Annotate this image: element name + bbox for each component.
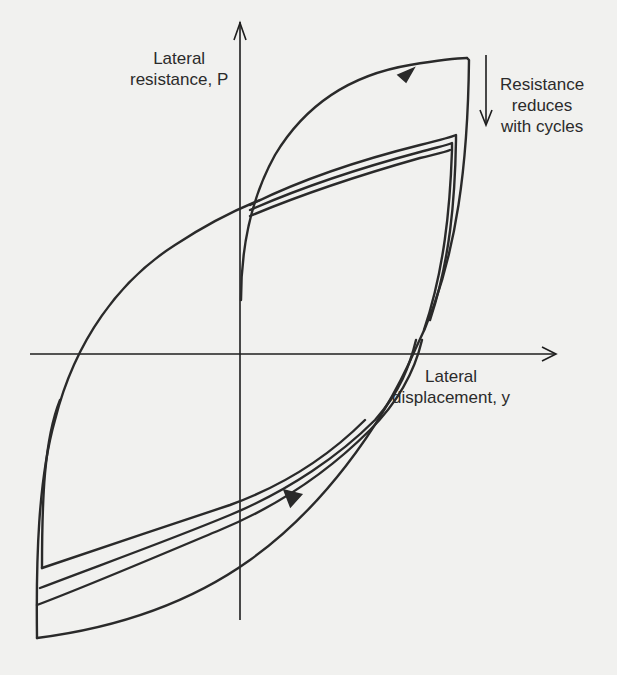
annotation-line-3: with cycles (500, 116, 584, 137)
y-axis-label: Lateral resistance, P (130, 48, 228, 90)
upper-branch-2 (250, 135, 456, 320)
upper-branch-3b (250, 150, 450, 216)
annotation-line-1: Resistance (500, 74, 584, 95)
loop-cycle-1 (37, 58, 469, 638)
loading-direction-arrow-icon (398, 68, 414, 82)
unloading-curve-1 (37, 58, 469, 638)
unloading-direction-arrow-icon (284, 486, 304, 508)
hysteresis-diagram: Lateral resistance, P Lateral displaceme… (0, 0, 617, 675)
lower-return-curve-3 (42, 420, 365, 568)
x-axis-label-line-2: displacement, y (392, 387, 510, 408)
y-axis-label-line-2: resistance, P (130, 69, 228, 90)
annotation-line-2: reduces (500, 95, 584, 116)
left-reversal-curve-1 (37, 200, 260, 638)
x-axis-label-line-1: Lateral (392, 366, 510, 387)
left-edge-3 (42, 400, 60, 568)
x-axis-label: Lateral displacement, y (392, 366, 510, 408)
resistance-annotation: Resistance reduces with cycles (500, 74, 584, 137)
y-axis-label-line-1: Lateral (130, 48, 228, 69)
loop-cycle-3 (40, 143, 452, 588)
axes (30, 22, 556, 620)
resistance-reduces-arrow-icon (480, 55, 492, 125)
upper-branch-3 (250, 143, 452, 330)
reloading-curve-2 (37, 340, 422, 605)
